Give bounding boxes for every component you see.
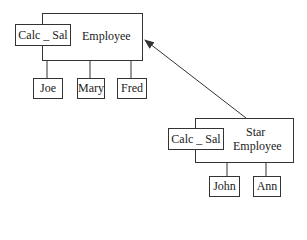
employee-label: Employee [82,29,131,43]
employee-calc-sal-method: Calc _ Sal [15,24,71,46]
instance-label: Ann [257,179,278,194]
instance-ann: Ann [253,176,281,197]
inheritance-arrow [145,40,246,118]
instance-fred: Fred [117,78,147,99]
instance-joe: Joe [33,78,63,99]
instance-mary: Mary [77,78,105,99]
star-employee-label-line2: Employee [233,139,282,153]
instance-john: John [209,176,240,197]
star-employee-label-line1: Star [246,125,265,139]
instance-label: John [213,179,236,194]
method-label: Calc _ Sal [171,132,220,147]
method-label: Calc _ Sal [18,28,67,43]
instance-label: Mary [78,81,104,96]
star-employee-calc-sal-method: Calc _ Sal [168,128,224,150]
instance-label: Joe [40,81,56,96]
instance-label: Fred [121,81,143,96]
